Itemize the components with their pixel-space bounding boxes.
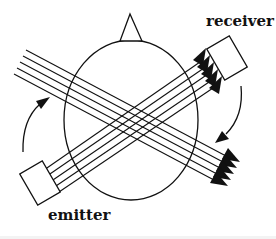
head-ellipse — [64, 40, 198, 200]
rotation-arc-right-icon — [226, 86, 241, 134]
diagram-canvas: receiver emitter — [0, 0, 276, 239]
receiver-label: receiver — [206, 14, 274, 29]
beam-crossing-lines — [14, 50, 226, 180]
nose-triangle-icon — [120, 14, 142, 41]
rotation-arrowhead-left-icon — [36, 97, 50, 109]
diagram-svg — [0, 0, 276, 239]
rotation-arc-left-icon — [23, 104, 40, 152]
emitter-label: emitter — [48, 208, 110, 223]
bottom-strip — [0, 236, 276, 239]
receiver-box — [207, 36, 248, 80]
emitter-box — [20, 161, 61, 205]
beam-crossing-arrowheads-icon — [210, 148, 240, 186]
